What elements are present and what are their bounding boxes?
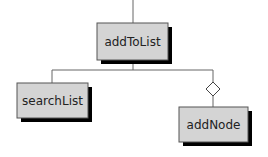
conditional-diamond-icon <box>206 82 220 96</box>
node-label: addNode <box>187 118 241 132</box>
node-label: searchList <box>22 94 83 108</box>
structure-chart: addToList searchList addNode <box>0 0 268 157</box>
node-searchList[interactable]: searchList <box>17 83 92 122</box>
node-addNode[interactable]: addNode <box>179 107 252 146</box>
node-addToList[interactable]: addToList <box>97 23 172 64</box>
node-label: addToList <box>104 35 160 49</box>
